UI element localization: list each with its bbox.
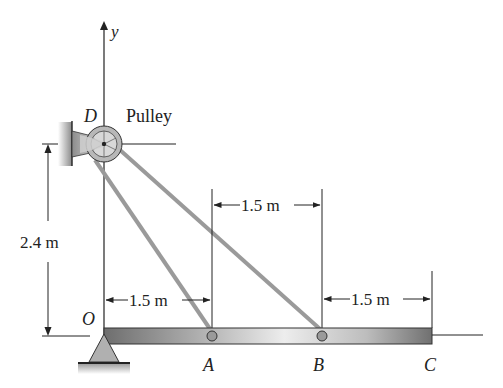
y-axis-label: y — [109, 22, 119, 41]
OA-dimension-label: 1.5 m — [129, 291, 168, 310]
axis-arrow-icon — [100, 21, 108, 30]
height-dimension-label: 2.4 m — [20, 233, 59, 252]
point-B-label: B — [313, 355, 324, 375]
point-O-label: O — [82, 309, 95, 329]
pulley — [80, 126, 122, 162]
BC-dimension-label: 1.5 m — [351, 290, 390, 309]
pin-A-icon — [207, 331, 217, 341]
AB-dimension-label: 1.5 m — [241, 196, 280, 215]
pin-B-icon — [317, 331, 327, 341]
pulley-label: Pulley — [126, 106, 172, 126]
pulley-axle-icon — [102, 142, 106, 146]
dimension-AB: 1.5 m — [214, 196, 320, 215]
point-C-label: C — [424, 355, 437, 375]
dimension-BC: 1.5 m — [324, 290, 430, 309]
beam — [104, 328, 483, 344]
point-A-label: A — [202, 355, 215, 375]
dimension-height: 2.4 m — [20, 144, 90, 336]
point-D-label: D — [83, 106, 97, 126]
beam-pulley-diagram: y D Pulley 2.4 m 1.5 m — [0, 0, 503, 388]
